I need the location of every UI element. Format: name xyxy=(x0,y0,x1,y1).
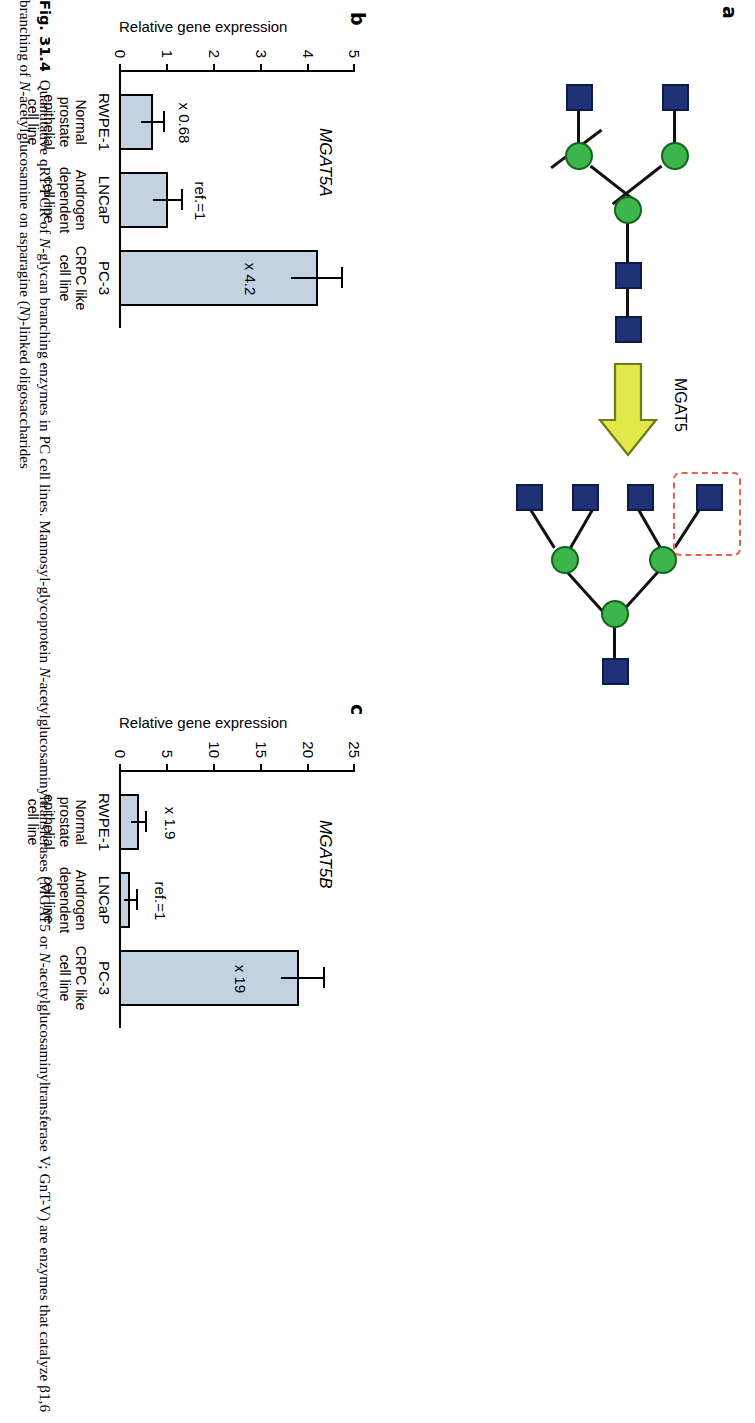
arrow-label-mgat5: MGAT5 xyxy=(671,378,689,432)
glycan-glcnac-square xyxy=(566,84,593,111)
panel-a-glycan-diagram: MGAT5 xyxy=(425,0,755,660)
glycan-glcnac-square xyxy=(615,316,642,343)
bar-pc-3 xyxy=(119,950,299,1006)
chart-title-mgat5a: MGAT5A xyxy=(315,128,335,197)
error-bar-cap xyxy=(145,811,147,832)
error-bar-cap xyxy=(136,889,138,910)
glycan-link xyxy=(528,507,555,548)
error-bar xyxy=(153,199,183,201)
y-tick xyxy=(119,764,121,771)
figure-31-4: a MGAT5 xyxy=(0,0,755,1423)
glycan-mannose-circle xyxy=(614,196,642,224)
y-tick xyxy=(307,64,309,71)
error-bar-cap xyxy=(163,111,165,132)
chart-mgat5b: MGAT5B 0 5 10 15 20 25 Relative gene exp… xyxy=(9,692,369,1052)
error-bar xyxy=(281,977,325,979)
figure-caption-p5: -acetylglucosamine on asparagine ( xyxy=(17,91,34,306)
figure-caption-i2: N xyxy=(37,667,54,677)
y-tick-label: 25 xyxy=(346,716,363,758)
y-tick-label: 5 xyxy=(346,20,363,58)
x-category-description-pc-3: CRPC like cell line xyxy=(57,936,89,1020)
y-tick xyxy=(119,64,121,71)
figure-caption-p6: )-linked oligosaccharides xyxy=(17,316,34,469)
chart-mgat5a: MGAT5A 0 1 2 3 4 5 Relative gene express… xyxy=(9,0,369,350)
arrow-right-icon xyxy=(597,362,659,458)
glycan-link xyxy=(569,507,595,549)
figure-caption-i4: N xyxy=(17,81,34,91)
error-bar-cap xyxy=(181,189,183,210)
x-category-label-lncap: LNCaP xyxy=(96,158,113,242)
bar-data-label-pc-3: x 4.2 xyxy=(242,238,259,320)
glycan-link xyxy=(636,507,662,549)
bar-data-label-pc-3: x 19 xyxy=(232,938,249,1020)
y-tick xyxy=(260,764,262,771)
bar-data-label-rwpe-1: x 0.68 xyxy=(176,82,193,164)
glycan-mannose-circle xyxy=(551,546,579,574)
y-tick xyxy=(166,764,168,771)
glycan-mannose-circle xyxy=(601,600,629,628)
figure-caption-i5: N xyxy=(17,306,34,316)
bar-data-label-lncap: ref.=1 xyxy=(152,860,169,942)
glycan-glcnac-square xyxy=(627,484,654,511)
glycan-glcnac-square xyxy=(516,484,543,511)
bar-data-label-lncap: ref.=1 xyxy=(192,160,209,242)
glycan-glcnac-square xyxy=(696,484,723,511)
error-bar xyxy=(291,277,343,279)
figure-caption: Fig. 31.4 Quantitative qRT-PCR of N-glyc… xyxy=(16,0,55,1412)
y-tick xyxy=(166,64,168,71)
glycan-mannose-circle xyxy=(649,546,677,574)
y-tick xyxy=(353,764,355,771)
x-category-description-pc-3: CRPC like cell line xyxy=(57,236,89,320)
y-tick xyxy=(213,764,215,771)
figure-caption-p1: Quantitative qRT-PCR of xyxy=(37,80,54,238)
glycan-glcnac-square xyxy=(572,484,599,511)
y-tick xyxy=(307,764,309,771)
y-tick xyxy=(213,64,215,71)
y-tick xyxy=(260,64,262,71)
x-category-label-rwpe-1: RWPE-1 xyxy=(96,80,113,164)
x-category-label-pc-3: PC-3 xyxy=(96,936,113,1020)
y-axis-label: Relative gene expression xyxy=(119,18,287,35)
figure-caption-p3: -acetylglucosaminyltransferases (MGAT5 o… xyxy=(37,677,54,952)
figure-rotation-wrapper: a MGAT5 xyxy=(0,0,755,1423)
y-tick xyxy=(353,64,355,71)
glycan-glcnac-square xyxy=(602,658,629,685)
glycan-glcnac-square xyxy=(615,262,642,289)
figure-caption-i3: N xyxy=(37,953,54,963)
bar-pc-3 xyxy=(119,250,318,306)
y-axis-line xyxy=(119,770,355,772)
x-category-label-pc-3: PC-3 xyxy=(96,236,113,320)
figure-caption-p2: -glycan branching enzymes in PC cell lin… xyxy=(37,248,54,667)
glycan-glcnac-square xyxy=(662,84,689,111)
error-bar-cap xyxy=(341,267,343,288)
error-bar xyxy=(141,121,165,123)
y-axis-line xyxy=(119,70,355,72)
y-axis-label: Relative gene expression xyxy=(119,714,287,731)
figure-caption-label: Fig. 31.4 xyxy=(37,0,53,72)
error-bar-cap xyxy=(323,967,325,988)
figure-caption-i1: N xyxy=(37,238,54,248)
x-category-label-rwpe-1: RWPE-1 xyxy=(96,780,113,864)
y-tick-label: 4 xyxy=(300,20,317,58)
x-category-label-lncap: LNCaP xyxy=(96,858,113,942)
chart-title-mgat5b: MGAT5B xyxy=(315,820,335,889)
glycan-mannose-circle xyxy=(565,142,593,170)
glycan-link xyxy=(562,567,606,615)
mgat5-reaction-arrow xyxy=(597,362,659,458)
y-tick-label: 20 xyxy=(300,716,317,758)
bar-data-label-rwpe-1: x 1.9 xyxy=(162,782,179,864)
glycan-mannose-circle xyxy=(661,142,689,170)
